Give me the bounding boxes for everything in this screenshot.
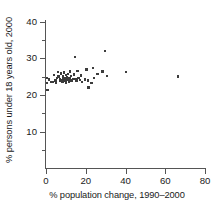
- data-point: [101, 70, 103, 72]
- data-point: [104, 50, 106, 52]
- y-tick-label-30: 30: [0, 53, 37, 63]
- data-point: [53, 74, 55, 76]
- data-point: [93, 77, 95, 79]
- data-point: [106, 75, 108, 77]
- y-tick-10: [40, 132, 45, 133]
- y-tick-label-20: 20: [0, 90, 37, 100]
- x-tick-label-60: 60: [150, 176, 180, 186]
- data-point: [87, 86, 89, 88]
- y-tick-40: [40, 22, 45, 23]
- plot-area: [46, 21, 205, 168]
- x-tick-label-20: 20: [71, 176, 101, 186]
- data-point: [74, 56, 76, 58]
- y-minor-tick-15: [42, 113, 45, 114]
- x-tick-20: [86, 169, 87, 174]
- data-point: [125, 71, 127, 73]
- data-point: [90, 82, 92, 84]
- data-point: [81, 81, 83, 83]
- data-point: [46, 82, 48, 84]
- x-tick-label-0: 0: [31, 176, 61, 186]
- data-point: [69, 70, 71, 72]
- data-point: [87, 79, 89, 81]
- x-tick-label-80: 80: [190, 176, 220, 186]
- data-point: [75, 79, 77, 81]
- x-tick-60: [165, 169, 166, 174]
- data-point: [92, 67, 94, 69]
- y-tick-label-10: 10: [0, 127, 37, 137]
- data-point: [96, 73, 98, 75]
- y-tick-20: [40, 95, 45, 96]
- data-point: [71, 80, 73, 82]
- x-axis-label: % population change, 1990–2000: [22, 190, 212, 200]
- data-point: [73, 73, 75, 75]
- data-point: [80, 74, 82, 76]
- y-tick-label-40: 40: [0, 17, 37, 27]
- data-point: [55, 82, 57, 84]
- x-tick-40: [126, 169, 127, 174]
- x-tick-80: [205, 169, 206, 174]
- data-point: [46, 89, 48, 91]
- y-tick-30: [40, 58, 45, 59]
- x-tick-0: [46, 169, 47, 174]
- y-minor-tick-25: [42, 77, 45, 78]
- data-point: [84, 78, 86, 80]
- data-point: [177, 75, 179, 77]
- x-tick-label-40: 40: [111, 176, 141, 186]
- data-point: [85, 68, 87, 70]
- scatter-chart: % persons under 18 years old, 2000 10203…: [0, 0, 220, 211]
- data-point: [67, 73, 69, 75]
- y-minor-tick-5: [42, 150, 45, 151]
- y-minor-tick-35: [42, 40, 45, 41]
- data-point: [76, 70, 78, 72]
